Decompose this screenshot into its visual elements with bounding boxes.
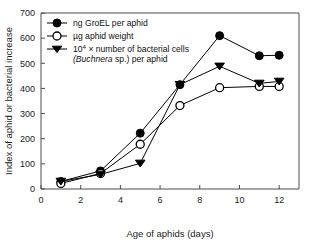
data-point-filled-circle bbox=[275, 51, 283, 59]
x-tick-label: 10 bbox=[234, 195, 244, 205]
y-tick-label: 700 bbox=[20, 8, 35, 18]
legend-bacteria-genus: (Buchnera bbox=[73, 54, 113, 64]
x-axis-title: Age of aphids (days) bbox=[126, 228, 213, 239]
chart-figure: 0100200300400500600700 024681012 Index o… bbox=[0, 0, 312, 244]
data-point-filled-circle bbox=[255, 52, 263, 60]
legend-label-weight: µg aphid weight bbox=[73, 31, 134, 41]
legend-label-bacteria: 104 × number of bacterial cells bbox=[73, 43, 189, 54]
legend-bacteria-pre: 10 bbox=[73, 44, 83, 54]
x-tick-label: 8 bbox=[197, 195, 202, 205]
series-2 bbox=[56, 63, 284, 185]
data-point-open-circle bbox=[216, 84, 224, 92]
y-tick-label: 200 bbox=[20, 134, 35, 144]
y-tick-label: 300 bbox=[20, 109, 35, 119]
data-point-open-circle bbox=[176, 102, 184, 110]
data-point-filled-triangle bbox=[135, 160, 145, 167]
y-axis-title: Index of aphid or bacterial increase bbox=[3, 27, 14, 175]
filled-circle-icon bbox=[53, 19, 61, 27]
y-tick-label: 600 bbox=[20, 33, 35, 43]
series-1 bbox=[57, 82, 283, 187]
x-tick-label: 0 bbox=[38, 195, 43, 205]
data-point-open-circle bbox=[136, 140, 144, 148]
x-tick-label: 4 bbox=[118, 195, 123, 205]
data-point-filled-circle bbox=[136, 129, 144, 137]
series-line-1 bbox=[61, 86, 279, 183]
chart-legend: ng GroEL per aphid µg aphid weight 104 ×… bbox=[47, 18, 189, 64]
x-tick-label: 6 bbox=[158, 195, 163, 205]
y-tick-label: 100 bbox=[20, 159, 35, 169]
open-circle-icon bbox=[53, 32, 61, 40]
legend-label-bacteria-line2: (Buchnera sp.) per aphid bbox=[73, 54, 168, 64]
x-tick-label: 2 bbox=[78, 195, 83, 205]
line-chart: 0100200300400500600700 024681012 Index o… bbox=[0, 0, 312, 244]
legend-entry-weight: µg aphid weight bbox=[47, 31, 134, 41]
legend-entry-bacteria: 104 × number of bacterial cells (Buchner… bbox=[47, 43, 189, 64]
x-tick-label: 12 bbox=[274, 195, 284, 205]
legend-bacteria-post: × number of bacterial cells bbox=[86, 44, 189, 54]
data-point-filled-circle bbox=[216, 32, 224, 40]
y-tick-label: 400 bbox=[20, 84, 35, 94]
legend-entry-groel: ng GroEL per aphid bbox=[47, 18, 148, 28]
series-line-2 bbox=[61, 66, 279, 181]
legend-label-groel: ng GroEL per aphid bbox=[73, 18, 148, 28]
legend-bacteria-line2-post: sp.) per aphid bbox=[113, 54, 168, 64]
x-axis: 024681012 bbox=[38, 185, 284, 205]
y-tick-label: 0 bbox=[30, 184, 35, 194]
y-tick-label: 500 bbox=[20, 59, 35, 69]
data-point-filled-triangle bbox=[215, 63, 225, 70]
